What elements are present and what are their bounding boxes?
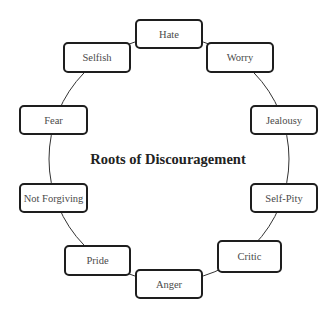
node-selfish: Selfish	[63, 42, 131, 73]
node-hate: Hate	[135, 19, 203, 49]
node-anger: Anger	[135, 269, 203, 299]
node-jealousy: Jealousy	[250, 105, 318, 135]
diagram-title: Roots of Discouragement	[0, 151, 336, 168]
node-critic: Critic	[217, 240, 282, 273]
node-not-forgiving: Not Forgiving	[19, 183, 88, 213]
node-fear: Fear	[19, 105, 88, 135]
node-self-pity: Self-Pity	[250, 183, 318, 213]
node-pride: Pride	[64, 245, 131, 276]
node-worry: Worry	[206, 42, 274, 73]
